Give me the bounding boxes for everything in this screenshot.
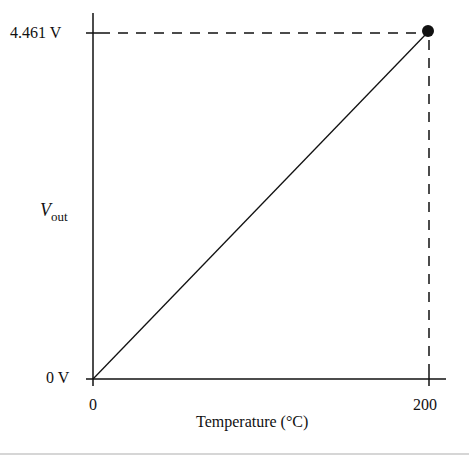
y-axis-title: Vout	[40, 200, 68, 225]
y-axis-title-sub: out	[51, 209, 68, 224]
x-axis-title: Temperature (°C)	[196, 414, 308, 430]
data-point-marker	[422, 25, 434, 37]
data-line	[93, 32, 428, 379]
y-tick-label-bottom: 0 V	[46, 370, 69, 386]
x-tick-label-left: 0	[89, 397, 97, 413]
chart-canvas	[0, 0, 469, 460]
bottom-divider	[0, 453, 469, 455]
y-axis-title-main: V	[40, 200, 51, 220]
x-tick-label-right: 200	[413, 397, 437, 413]
y-tick-label-top: 4.461 V	[10, 25, 61, 41]
